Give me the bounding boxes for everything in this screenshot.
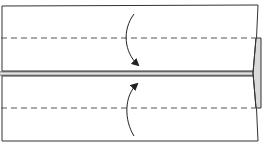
center-crease-gap	[0, 73, 255, 75]
upper-paper-panel	[2, 5, 258, 71]
fold-diagram	[0, 0, 265, 144]
lower-paper-panel	[2, 76, 258, 141]
